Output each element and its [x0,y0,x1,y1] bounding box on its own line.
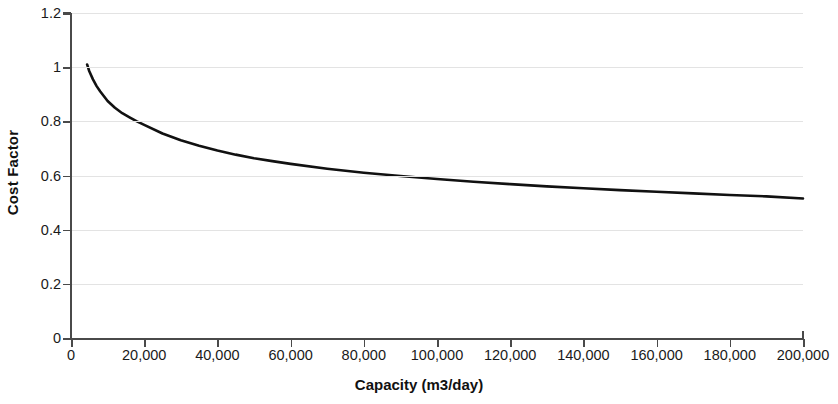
x-axis-title-text: Capacity (m3/day) [355,376,483,393]
plot-area [71,13,803,338]
x-axis-tick-mark [217,339,219,347]
y-axis-tick-mark [63,176,71,178]
x-axis-tick-mark [510,339,512,347]
x-axis-tick-mark [803,339,805,347]
x-axis-tick-label: 20,000 [122,347,166,363]
gridline-horizontal [71,121,803,122]
y-axis-tick-label: 0.6 [41,168,61,184]
y-axis-tick-label: 0.2 [41,276,61,292]
x-axis-tick-mark [71,339,73,347]
x-axis-tick-label: 80,000 [342,347,386,363]
curve-polyline [87,64,803,198]
y-axis-tick-label: 0.8 [41,113,61,129]
y-axis-tick-label: 1.2 [41,5,61,21]
gridline-horizontal [71,13,803,14]
x-axis-tick-label: 0 [67,347,75,363]
x-axis-tick-mark [583,339,585,347]
gridline-horizontal [71,176,803,177]
x-axis-tick-label: 180,000 [704,347,756,363]
y-axis-tick-mark [63,230,71,232]
x-axis-tick-mark [291,339,293,347]
x-axis-tick-label: 60,000 [268,347,312,363]
x-axis-title: Capacity (m3/day) [0,376,838,393]
y-axis-tick-label: 0.4 [41,222,61,238]
y-axis-title: Cost Factor [0,0,26,345]
x-axis-tick-mark [437,339,439,347]
y-axis-tick-mark [63,284,71,286]
x-axis-tick-label: 40,000 [195,347,239,363]
y-axis-tick-mark [63,338,71,340]
y-axis-tick-labels: 00.20.40.60.811.2 [26,0,67,345]
y-axis-tick-mark [63,67,71,69]
x-axis-tick-label: 100,000 [411,347,463,363]
x-axis-tick-label: 160,000 [630,347,682,363]
gridline-horizontal [71,67,803,68]
y-axis-tick-mark [63,121,71,123]
y-axis-title-text: Cost Factor [5,130,22,216]
x-axis-tick-label: 200,000 [777,347,829,363]
cost-factor-capacity-chart: Cost Factor 00.20.40.60.811.2 020,00040,… [0,0,838,404]
gridline-horizontal [71,284,803,285]
x-axis-tick-labels: 020,00040,00060,00080,000100,000120,0001… [0,347,838,371]
y-axis-tick-label: 1 [53,59,61,75]
x-axis-tick-mark [144,339,146,347]
gridline-horizontal [71,230,803,231]
y-axis-tick-label: 0 [53,330,61,346]
x-axis-tick-mark [730,339,732,347]
x-axis-tick-mark [364,339,366,347]
x-axis-tick-mark [657,339,659,347]
x-axis-tick-label: 120,000 [484,347,536,363]
x-axis-tick-label: 140,000 [557,347,609,363]
y-axis-tick-mark [63,13,71,15]
